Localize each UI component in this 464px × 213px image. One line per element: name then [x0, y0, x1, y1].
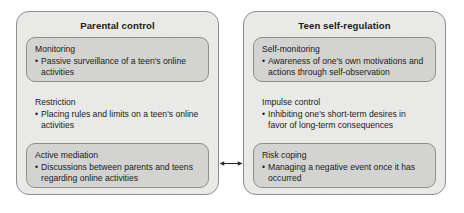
bullet-marker-icon: • [262, 162, 265, 173]
block-self-monitoring: Self-monitoring • Awareness of one's own… [253, 37, 436, 82]
block-heading-risk-coping: Risk coping [262, 150, 427, 161]
panel-title-parental-control: Parental control [17, 20, 218, 31]
bullet-text-monitoring: Passive surveillance of a teen's online … [41, 56, 200, 77]
block-heading-impulse-control: Impulse control [262, 97, 427, 108]
bullet-marker-icon: • [262, 56, 265, 67]
block-monitoring: Monitoring • Passive surveillance of a t… [26, 37, 209, 82]
bullet-marker-icon: • [35, 56, 38, 67]
block-heading-monitoring: Monitoring [35, 44, 200, 55]
block-risk-coping: Risk coping • Managing a negative event … [253, 143, 436, 188]
bullet-monitoring: • Passive surveillance of a teen's onlin… [35, 56, 200, 77]
block-heading-self-monitoring: Self-monitoring [262, 44, 427, 55]
block-heading-active-mediation: Active mediation [35, 150, 200, 161]
bullet-text-risk-coping: Managing a negative event once it has oc… [268, 162, 427, 183]
panel-parental-control: Parental control Monitoring • Passive su… [16, 11, 219, 195]
bullet-marker-icon: • [262, 109, 265, 120]
panel-title-teen-self-regulation: Teen self-regulation [244, 20, 445, 31]
bullet-marker-icon: • [35, 109, 38, 120]
block-active-mediation: Active mediation • Discussions between p… [26, 143, 209, 188]
block-heading-restriction: Restriction [35, 97, 200, 108]
block-restriction: Restriction • Placing rules and limits o… [26, 90, 209, 135]
bullet-text-impulse-control: Inhibiting one's short-term desires in f… [268, 109, 427, 130]
bullet-text-active-mediation: Discussions between parents and teens re… [41, 162, 200, 183]
bullet-text-self-monitoring: Awareness of one's own motivations and a… [268, 56, 427, 77]
bullet-self-monitoring: • Awareness of one's own motivations and… [262, 56, 427, 77]
bullet-restriction: • Placing rules and limits on a teen's o… [35, 109, 200, 130]
bullet-active-mediation: • Discussions between parents and teens … [35, 162, 200, 183]
diagram-canvas: Parental control Monitoring • Passive su… [0, 0, 464, 213]
double-arrow-icon [219, 158, 243, 169]
bullet-impulse-control: • Inhibiting one's short-term desires in… [262, 109, 427, 130]
bullet-marker-icon: • [35, 162, 38, 173]
bullet-text-restriction: Placing rules and limits on a teen's onl… [41, 109, 200, 130]
block-impulse-control: Impulse control • Inhibiting one's short… [253, 90, 436, 135]
panel-teen-self-regulation: Teen self-regulation Self-monitoring • A… [243, 11, 446, 195]
bullet-risk-coping: • Managing a negative event once it has … [262, 162, 427, 183]
